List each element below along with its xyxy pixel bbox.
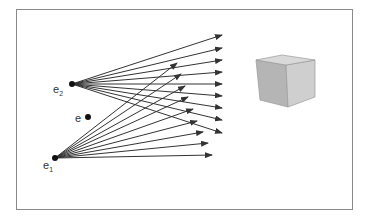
ray-e2 <box>72 35 222 84</box>
ray-e2 <box>72 48 222 84</box>
cube-face-right <box>286 60 315 107</box>
label-e2: e2 <box>53 83 63 97</box>
points-group: e2ee1 <box>43 81 91 173</box>
ray-e2 <box>72 60 222 84</box>
ray-e1 <box>55 74 181 158</box>
ray-e1 <box>55 132 203 158</box>
label-e: e <box>75 112 81 124</box>
epipolar-diagram: e2ee1 <box>0 0 367 223</box>
ray-e2 <box>72 84 222 120</box>
ray-e2 <box>72 72 222 84</box>
cube-icon <box>256 55 315 107</box>
ray-e1 <box>55 121 197 158</box>
ray-e2 <box>72 84 222 108</box>
cube-face-left <box>256 60 288 107</box>
label-e1: e1 <box>43 159 53 173</box>
point-e2 <box>69 81 75 87</box>
point-e <box>85 114 91 120</box>
point-e1 <box>52 155 58 161</box>
rays-group <box>55 35 222 158</box>
